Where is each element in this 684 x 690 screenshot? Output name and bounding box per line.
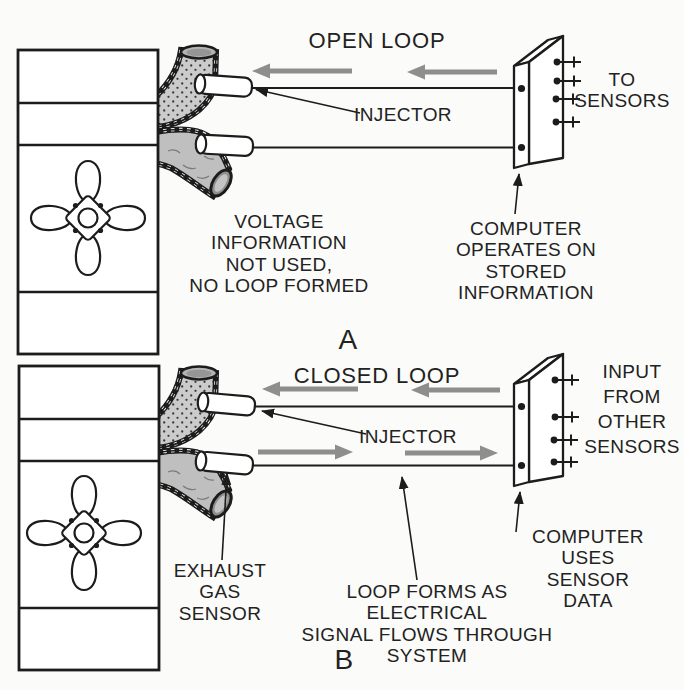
- pointer-injector-a: [256, 90, 360, 114]
- exhaust-manifold-b: [155, 367, 235, 521]
- computer-b: [514, 354, 579, 486]
- signal-arrows-b: [258, 382, 500, 461]
- engine-block-a: [18, 50, 158, 354]
- pointer-computer-a: [515, 174, 519, 214]
- exhaust-manifold-a: [155, 46, 235, 200]
- engine-block-b: [19, 366, 159, 670]
- injector-b: [197, 392, 256, 416]
- computer-note-a: COMPUTER OPERATES ON STORED INFORMATION: [447, 218, 605, 304]
- section-label-b: B: [334, 644, 353, 676]
- closed-loop-title: CLOSED LOOP: [294, 364, 461, 389]
- injector-label-b: INJECTOR: [359, 426, 457, 447]
- injector-a: [194, 74, 252, 97]
- to-sensors-label: TO SENSORS: [574, 69, 670, 112]
- voltage-note: VOLTAGE INFORMATION NOT USED, NO LOOP FO…: [189, 211, 368, 297]
- input-from-sensors-label: INPUT FROM OTHER SENSORS: [584, 359, 680, 459]
- computer-a: [514, 36, 581, 168]
- pointer-loop-note: [402, 477, 417, 580]
- pointer-computer-b: [516, 492, 520, 532]
- exhaust-gas-sensor-b: [195, 451, 254, 475]
- exhaust-sensor-a: [195, 134, 253, 156]
- signal-arrows-a: [252, 64, 497, 80]
- injector-label-a: INJECTOR: [354, 104, 452, 125]
- exhaust-gas-sensor-label: EXHAUST GAS SENSOR: [174, 560, 267, 624]
- section-label-a: A: [338, 324, 357, 356]
- diagram-canvas: OPEN LOOP INJECTOR TO SENSORS VOLTAGE IN…: [0, 0, 684, 690]
- open-loop-title: OPEN LOOP: [309, 29, 446, 54]
- pointer-injector-b: [262, 411, 366, 434]
